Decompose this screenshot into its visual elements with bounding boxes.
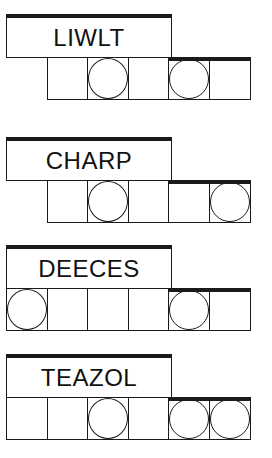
scrambled-word: LIWLT [6, 14, 172, 58]
letter-cell[interactable] [128, 288, 170, 331]
circled-letter-cell[interactable] [6, 288, 48, 331]
circle-marker-icon [88, 181, 128, 222]
circle-marker-icon [210, 399, 250, 439]
letter-cell[interactable] [128, 57, 170, 100]
scrambled-word: CHARP [6, 137, 172, 181]
letter-cell[interactable] [47, 288, 89, 331]
circled-letter-cell[interactable] [209, 397, 251, 440]
letter-cell[interactable] [47, 57, 89, 100]
circle-marker-icon [169, 290, 209, 330]
letter-cell[interactable] [47, 397, 89, 440]
circled-letter-cell[interactable] [168, 57, 210, 100]
circled-letter-cell[interactable] [87, 397, 129, 440]
answer-cells [47, 180, 251, 223]
circled-letter-cell[interactable] [87, 180, 129, 223]
circle-marker-icon [7, 289, 47, 330]
letter-cell[interactable] [209, 57, 251, 100]
circled-letter-cell[interactable] [168, 397, 210, 440]
circle-marker-icon [169, 59, 209, 99]
answer-cells [6, 397, 251, 440]
letter-cell[interactable] [47, 180, 89, 223]
letter-cell[interactable] [128, 397, 170, 440]
circle-marker-icon [169, 399, 209, 439]
answer-cells [6, 288, 251, 331]
circled-letter-cell[interactable] [209, 180, 251, 223]
circle-marker-icon [88, 398, 128, 439]
circle-marker-icon [88, 58, 128, 99]
circled-letter-cell[interactable] [168, 288, 210, 331]
letter-cell[interactable] [87, 288, 129, 331]
circled-letter-cell[interactable] [87, 57, 129, 100]
scrambled-word: TEAZOL [6, 354, 172, 398]
scrambled-word: DEECES [6, 245, 172, 289]
answer-cells [47, 57, 251, 100]
letter-cell[interactable] [6, 397, 48, 440]
letter-cell[interactable] [128, 180, 170, 223]
letter-cell[interactable] [209, 288, 251, 331]
circle-marker-icon [210, 182, 250, 222]
letter-cell[interactable] [168, 180, 210, 223]
